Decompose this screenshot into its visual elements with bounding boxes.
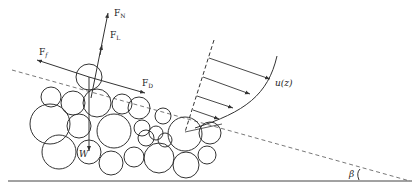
particle (158, 133, 172, 147)
label-weight: W (79, 149, 89, 159)
label-normal-force: FN (114, 8, 126, 19)
velocity-arrow (203, 77, 250, 94)
particle (168, 117, 202, 151)
particle (61, 91, 85, 115)
particle (124, 147, 144, 167)
velocity-arrow (197, 96, 233, 108)
label-friction-force: Ff (39, 47, 49, 59)
slope-line (12, 70, 410, 181)
label-lift-force: FL (110, 30, 120, 41)
particle (42, 135, 76, 169)
sediment-force-diagram: FN FL Ff FD W u(z) β (0, 0, 419, 192)
particle (198, 146, 216, 164)
particle (99, 151, 123, 175)
particle-bed (30, 64, 221, 178)
velocity-arrow (209, 58, 270, 79)
label-slope-angle: β (348, 169, 354, 179)
particle (83, 89, 111, 117)
velocity-arrows (193, 58, 270, 119)
velocity-axis (185, 40, 214, 132)
particle (134, 120, 150, 136)
particle (149, 126, 163, 140)
particle (173, 152, 199, 178)
velocity-profile (185, 40, 277, 132)
force-arrows (37, 13, 145, 151)
particle (155, 108, 171, 124)
drag-force-arrow (89, 77, 145, 93)
velocity-curve (195, 56, 277, 128)
slope-angle-arc (358, 169, 360, 180)
label-drag-force: FD (142, 78, 153, 89)
particle (144, 143, 174, 173)
label-velocity-profile: u(z) (275, 78, 293, 88)
particle (67, 114, 91, 138)
velocity-arrow (193, 110, 219, 119)
friction-force-arrow (37, 60, 89, 77)
particle (97, 114, 131, 148)
